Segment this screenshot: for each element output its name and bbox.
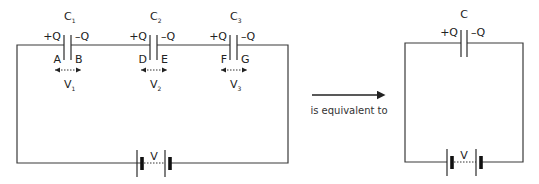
capacitor-label: C2 xyxy=(150,10,162,24)
battery-voltage-label: V xyxy=(150,150,158,163)
charge-minus-label: –Q xyxy=(161,30,176,43)
wire-loop xyxy=(405,43,523,162)
node-label-f: F xyxy=(221,53,227,66)
capacitors-series-diagram: C1 +Q –Q A B V1 C2 +Q –Q D E V2 C3 +Q –Q xyxy=(0,0,539,184)
node-label-e: E xyxy=(161,53,168,66)
capacitor-c: C +Q –Q xyxy=(440,8,485,57)
capacitor-c2: C2 +Q –Q D E V2 xyxy=(129,10,175,92)
capacitor-label: C3 xyxy=(230,10,242,24)
voltage-label: V2 xyxy=(150,78,162,92)
voltage-label: V3 xyxy=(230,78,242,92)
voltage-label: V1 xyxy=(64,78,76,92)
battery: V xyxy=(447,149,481,176)
battery: V xyxy=(137,150,170,177)
battery-voltage-label: V xyxy=(460,149,468,162)
charge-minus-label: –Q xyxy=(241,30,256,43)
charge-plus-label: +Q xyxy=(43,30,61,43)
capacitor-label: C xyxy=(460,8,468,21)
charge-minus-label: –Q xyxy=(471,26,486,39)
series-circuit: C1 +Q –Q A B V1 C2 +Q –Q D E V2 C3 +Q –Q xyxy=(17,10,288,177)
charge-plus-label: +Q xyxy=(129,30,147,43)
equivalence-arrow: is equivalent to xyxy=(310,95,387,116)
charge-minus-label: –Q xyxy=(75,30,90,43)
capacitor-c1: C1 +Q –Q A B V1 xyxy=(43,10,89,92)
node-label-g: G xyxy=(241,53,250,66)
node-label-b: B xyxy=(75,53,83,66)
capacitor-c3: C3 +Q –Q F G V3 xyxy=(209,10,255,92)
node-label-d: D xyxy=(139,53,147,66)
charge-plus-label: +Q xyxy=(440,26,458,39)
equivalent-circuit: C +Q –Q V xyxy=(405,8,523,176)
node-label-a: A xyxy=(53,53,61,66)
capacitor-label: C1 xyxy=(64,10,76,24)
charge-plus-label: +Q xyxy=(209,30,227,43)
equivalence-caption: is equivalent to xyxy=(310,105,387,116)
